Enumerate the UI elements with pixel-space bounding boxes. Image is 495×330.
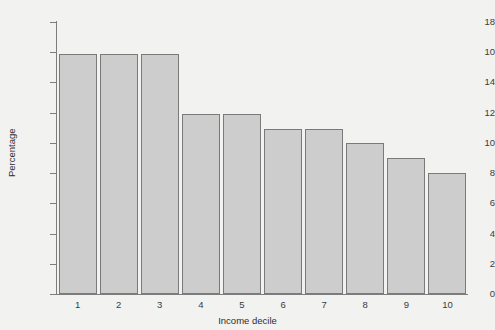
bar xyxy=(387,158,425,294)
y-axis-tick xyxy=(50,22,56,23)
x-axis-tick-label: 3 xyxy=(139,300,180,310)
y-axis-tick xyxy=(50,52,56,53)
x-axis-tick-label: 9 xyxy=(386,300,427,310)
bar xyxy=(346,143,384,294)
plot-area xyxy=(57,22,468,294)
y-axis-title: Percentage xyxy=(7,108,17,198)
x-axis-tick-label: 8 xyxy=(345,300,386,310)
bar xyxy=(100,54,138,294)
x-axis-tick-label: 6 xyxy=(263,300,304,310)
x-axis-tick-label: 4 xyxy=(180,300,221,310)
bar xyxy=(264,129,302,294)
bar xyxy=(305,129,343,294)
y-axis-tick xyxy=(50,264,56,265)
y-axis-tick xyxy=(50,234,56,235)
y-axis-tick xyxy=(50,173,56,174)
x-axis-tick-label: 10 xyxy=(427,300,468,310)
bar xyxy=(182,114,220,294)
y-axis-tick xyxy=(50,143,56,144)
y-axis-tick xyxy=(50,82,56,83)
x-axis-title: Income decile xyxy=(0,316,495,326)
y-axis-tick xyxy=(50,203,56,204)
x-axis-line xyxy=(56,294,468,295)
y-axis-tick xyxy=(50,113,56,114)
x-axis-tick-label: 7 xyxy=(304,300,345,310)
x-axis-tick-label: 5 xyxy=(221,300,262,310)
bar xyxy=(59,54,97,294)
x-axis-tick-label: 2 xyxy=(98,300,139,310)
bar xyxy=(428,173,466,294)
bar xyxy=(141,54,179,294)
bar xyxy=(223,114,261,294)
x-axis-tick-label: 1 xyxy=(57,300,98,310)
bar-chart-figure: 024681012141018 12345678910 Income decil… xyxy=(0,0,495,330)
y-axis-tick xyxy=(50,294,56,295)
